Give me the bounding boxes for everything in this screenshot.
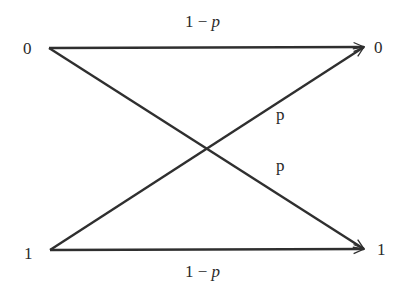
edge-label-bottom-var: p (212, 262, 221, 281)
edge-label-bottom-num: 1 (185, 262, 194, 281)
input-node-0: 0 (23, 40, 32, 57)
edge-label-top: 1 − p (185, 13, 220, 30)
edge-label-bottom-op: − (198, 262, 208, 281)
edge-label-cross-up: p (276, 106, 285, 123)
edge-1-to-1 (50, 249, 364, 250)
edge-label-cross-down: p (276, 157, 285, 174)
binary-symmetric-channel-diagram: 0 1 0 1 1 − p p p 1 − p (0, 0, 408, 297)
edge-label-top-num: 1 (185, 12, 194, 31)
output-node-1: 1 (377, 241, 386, 258)
edge-label-top-op: − (198, 12, 208, 31)
input-node-1: 1 (24, 245, 33, 262)
edge-label-top-var: p (212, 12, 221, 31)
channel-edges (0, 0, 408, 297)
edge-label-bottom: 1 − p (185, 263, 220, 280)
edge-0-to-0 (49, 47, 364, 48)
output-node-0: 0 (374, 39, 383, 56)
